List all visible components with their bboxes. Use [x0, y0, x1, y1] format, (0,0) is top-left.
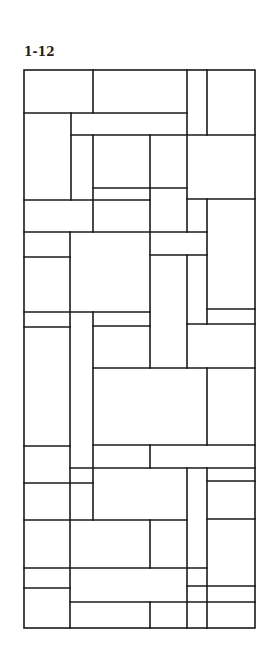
outer-frame: [24, 70, 255, 628]
rectangle-composition-diagram: [0, 0, 275, 661]
horizontal-dividers: [24, 113, 255, 602]
vertical-dividers: [70, 70, 207, 628]
